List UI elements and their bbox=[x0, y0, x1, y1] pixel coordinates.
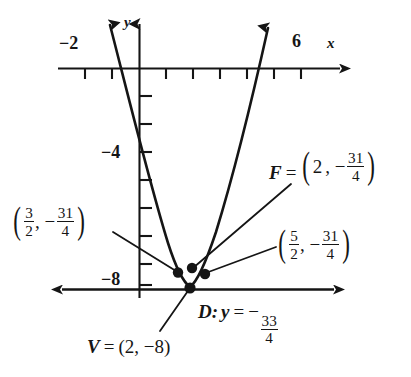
directrix-fraction-numerator: 33 bbox=[261, 313, 278, 329]
directrix-label: D:y=− 33 4 bbox=[198, 302, 279, 346]
parabola-curve bbox=[110, 25, 268, 287]
focus-fraction-numerator: 31 bbox=[347, 150, 364, 166]
right-endpoint-label: ( 5 2 , − 31 4 ) bbox=[276, 228, 352, 261]
x-axis-ticks bbox=[85, 69, 301, 80]
focus-label-equals: = bbox=[282, 162, 301, 183]
point-focus bbox=[187, 263, 197, 273]
focus-paren-left: ( bbox=[303, 150, 311, 182]
x-tick-label-minus2: −2 bbox=[59, 34, 78, 52]
left-endpoint-label: ( 3 2 , − 31 4 ) bbox=[11, 205, 87, 238]
focus-paren-right: ) bbox=[368, 150, 376, 182]
vertex-label: V=(2, −8) bbox=[87, 337, 170, 356]
left-endpoint-comma: , bbox=[35, 212, 45, 231]
right-endpoint-y-denominator: 4 bbox=[326, 246, 336, 262]
directrix-minus-sign: − bbox=[248, 301, 259, 322]
point-right-endpoint bbox=[200, 269, 210, 279]
directrix-prefix: D: bbox=[198, 301, 218, 322]
leader-vertex bbox=[160, 288, 190, 331]
y-tick-label-minus8: −8 bbox=[101, 270, 120, 288]
focus-comma: , bbox=[325, 157, 335, 176]
directrix-equals: = bbox=[230, 301, 249, 322]
point-left-endpoint bbox=[173, 267, 183, 277]
left-endpoint-y-numerator: 31 bbox=[57, 205, 74, 221]
y-axis-ticks bbox=[140, 96, 153, 285]
right-endpoint-minus-sign: − bbox=[309, 235, 320, 254]
left-endpoint-x-numerator: 3 bbox=[24, 205, 34, 221]
left-endpoint-x-denominator: 2 bbox=[24, 223, 34, 239]
parabola-figure: −2 6 x y −4 −8 F= ( 2, − 31 4 ) ( bbox=[0, 0, 411, 377]
y-tick-label-minus4: −4 bbox=[101, 143, 120, 161]
right-endpoint-paren-right: ) bbox=[342, 228, 350, 260]
left-endpoint-paren-left: ( bbox=[13, 205, 21, 237]
vertex-label-equals: = bbox=[100, 336, 119, 357]
left-endpoint-y-fraction: 31 4 bbox=[57, 205, 74, 238]
directrix-fraction: 33 4 bbox=[261, 313, 278, 346]
x-axis bbox=[58, 69, 340, 80]
right-endpoint-x-numerator: 5 bbox=[289, 228, 299, 244]
left-endpoint-minus-sign: − bbox=[44, 212, 55, 231]
right-endpoint-paren-left: ( bbox=[278, 228, 286, 260]
right-endpoint-y-fraction: 31 4 bbox=[322, 228, 339, 261]
focus-minus-sign: − bbox=[335, 157, 346, 176]
left-endpoint-paren-right: ) bbox=[77, 205, 85, 237]
right-endpoint-x-fraction: 5 2 bbox=[289, 228, 299, 261]
vertex-label-name: V bbox=[87, 336, 100, 357]
left-endpoint-x-fraction: 3 2 bbox=[24, 205, 34, 238]
right-endpoint-y-numerator: 31 bbox=[322, 228, 339, 244]
x-axis-label: x bbox=[327, 36, 335, 51]
y-axis-label: y bbox=[124, 15, 131, 30]
point-vertex bbox=[184, 282, 195, 293]
right-endpoint-x-denominator: 2 bbox=[289, 246, 299, 262]
x-tick-label-6: 6 bbox=[292, 32, 301, 50]
directrix-variable: y bbox=[221, 301, 229, 322]
vertex-label-point: (2, −8) bbox=[118, 336, 170, 357]
left-endpoint-y-denominator: 4 bbox=[61, 223, 71, 239]
focus-x-value: 2 bbox=[313, 157, 326, 176]
focus-fraction: 31 4 bbox=[347, 150, 364, 183]
right-endpoint-comma: , bbox=[300, 235, 310, 254]
focus-label: F= ( 2, − 31 4 ) bbox=[269, 150, 378, 183]
focus-label-name: F bbox=[269, 162, 282, 183]
focus-fraction-denominator: 4 bbox=[351, 168, 361, 184]
directrix-fraction-denominator: 4 bbox=[264, 330, 274, 346]
